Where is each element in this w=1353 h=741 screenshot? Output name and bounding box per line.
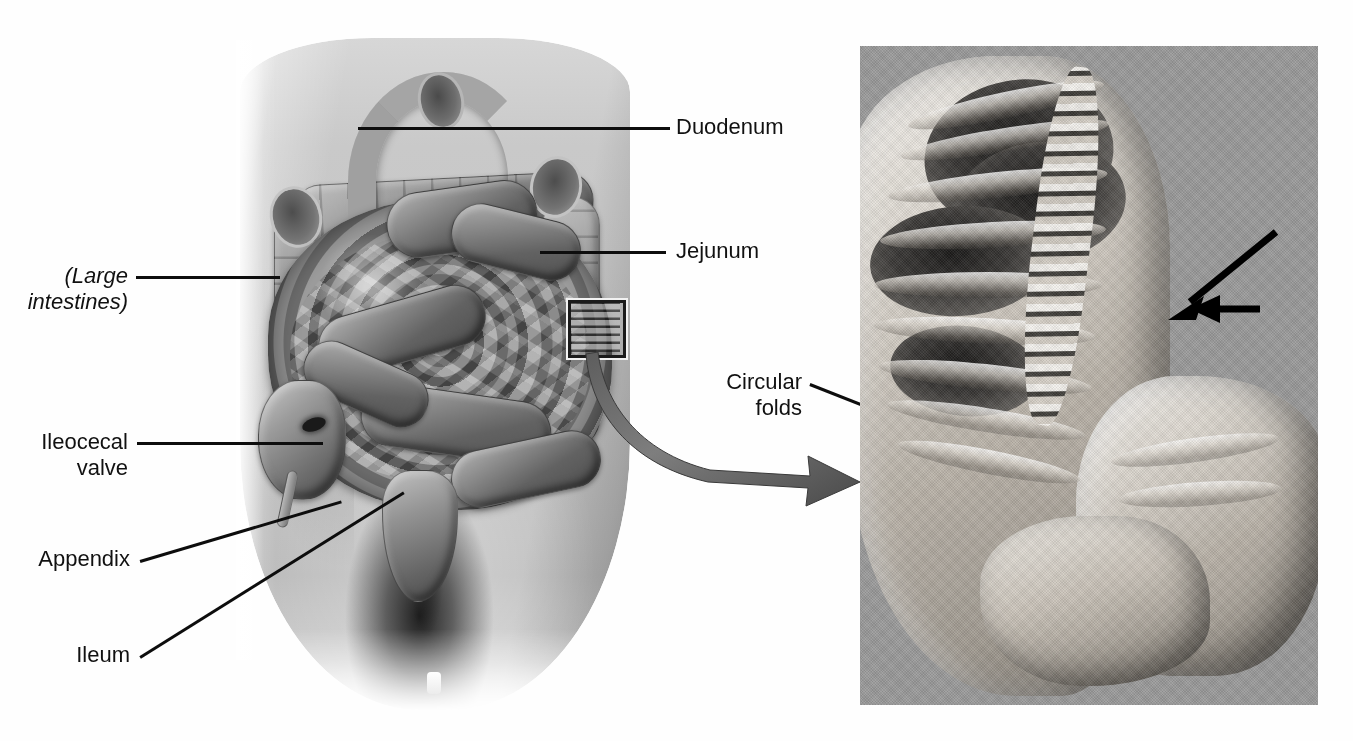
label-ileocecal-valve: Ileocecal valve (0, 429, 128, 481)
label-large-intestines: (Large intestines) (0, 263, 128, 315)
label-appendix: Appendix (0, 546, 130, 572)
cecum (258, 380, 346, 500)
leader-line-duodenum (358, 127, 670, 130)
photo-film-grain (860, 46, 1318, 705)
leader-line-jejunum (540, 251, 666, 254)
pubic-highlight (427, 672, 441, 694)
label-duodenum: Duodenum (676, 114, 784, 140)
leader-line-ileocecal-valve (137, 442, 323, 445)
circular-folds-photograph (860, 46, 1318, 705)
pointer-arrow-left (1182, 292, 1266, 326)
label-ileum: Ileum (0, 642, 130, 668)
figure-canvas: Duodenum Jejunum (Large intestines) Ileo… (0, 0, 1353, 741)
magnified-region-box (568, 300, 626, 358)
leader-line-large-intestines (136, 276, 280, 279)
label-jejunum: Jejunum (676, 238, 759, 264)
label-circular-folds: Circular folds (620, 369, 802, 421)
